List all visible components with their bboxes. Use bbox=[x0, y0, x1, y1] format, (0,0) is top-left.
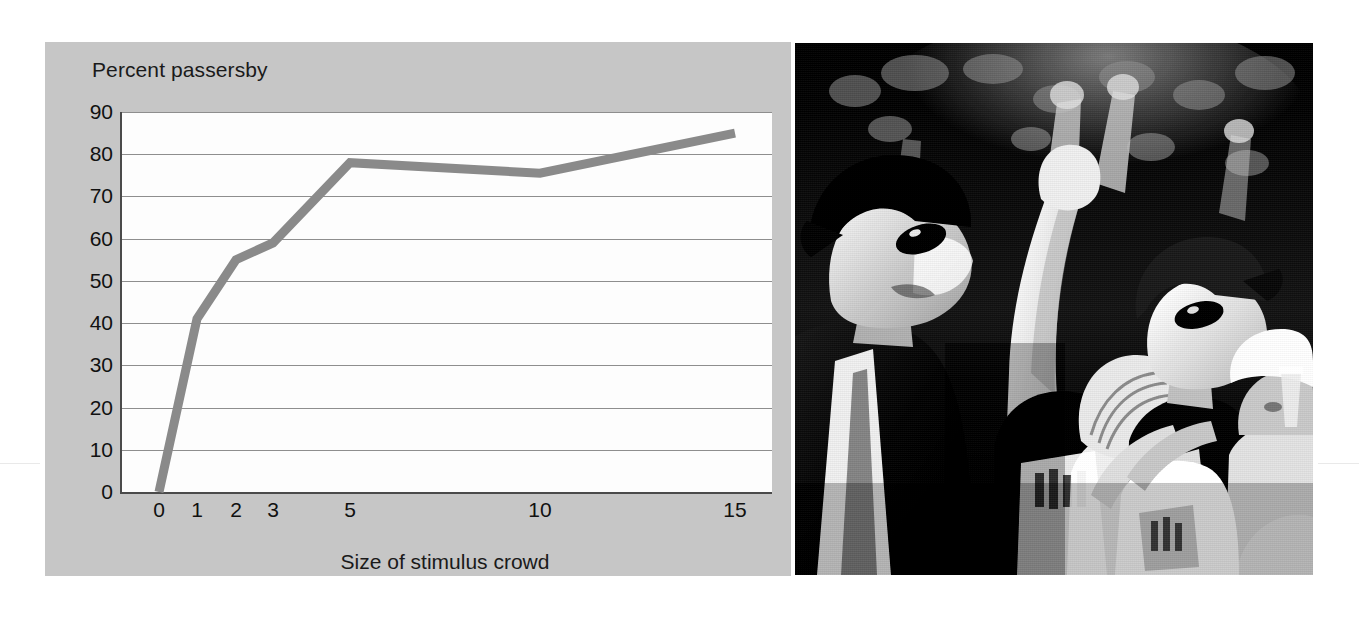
x-tick-label: 10 bbox=[528, 498, 551, 522]
scan-artifact-line bbox=[1318, 463, 1359, 464]
y-tick-label: 10 bbox=[90, 438, 113, 462]
y-tick-label: 80 bbox=[90, 142, 113, 166]
x-tick-label: 5 bbox=[344, 498, 356, 522]
chart-title: Percent passersby bbox=[92, 58, 268, 82]
y-tick-label: 40 bbox=[90, 311, 113, 335]
y-tick-label: 0 bbox=[101, 480, 113, 504]
figure-container: Percent passersby 0102030405060708090 01… bbox=[0, 0, 1359, 617]
series-line-percent-passersby bbox=[159, 133, 735, 492]
y-tick-label: 60 bbox=[90, 227, 113, 251]
x-tick-label: 1 bbox=[191, 498, 203, 522]
crowd-looking-up-photo bbox=[795, 43, 1313, 575]
y-tick-label: 50 bbox=[90, 269, 113, 293]
crowd-photo-artwork bbox=[795, 43, 1313, 575]
x-tick-label: 15 bbox=[723, 498, 746, 522]
x-tick-label: 2 bbox=[230, 498, 242, 522]
x-tick-label: 0 bbox=[153, 498, 165, 522]
chart-panel: Percent passersby 0102030405060708090 01… bbox=[45, 42, 791, 576]
x-tick-label: 3 bbox=[267, 498, 279, 522]
y-tick-label: 20 bbox=[90, 396, 113, 420]
y-tick-label: 90 bbox=[90, 100, 113, 124]
plot-area: 0102030405060708090 012351015 bbox=[120, 112, 772, 494]
x-axis-title: Size of stimulus crowd bbox=[120, 550, 770, 574]
y-tick-label: 30 bbox=[90, 353, 113, 377]
series-line-chart bbox=[122, 112, 772, 492]
scan-artifact-line bbox=[0, 463, 40, 464]
y-tick-label: 70 bbox=[90, 184, 113, 208]
